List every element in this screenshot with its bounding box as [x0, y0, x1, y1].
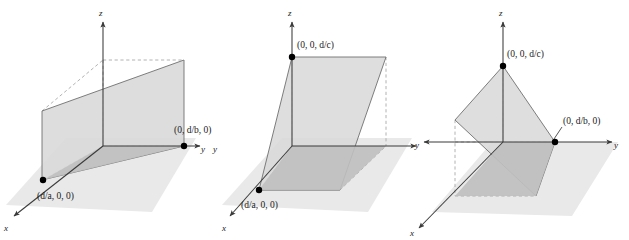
axis-label-y-1: y [200, 144, 205, 154]
axis-label-z-2: z [287, 8, 292, 18]
leader-line-3 [554, 127, 562, 139]
y-intercept-label-3: (0, d/b, 0) [563, 116, 600, 127]
figure-canvas: z y x (d/a, 0, 0) (0, d/b, 0) z y x [0, 0, 629, 240]
axis-label-y-neg-3: y [414, 140, 419, 150]
z-intercept-dot-2 [289, 54, 295, 60]
y-intercept-dot-1 [181, 143, 187, 149]
z-intercept-label-3: (0, 0, d/c) [507, 49, 544, 60]
z-intercept-dot-3 [500, 63, 506, 69]
y-intercept-dot-3 [552, 139, 558, 145]
axis-label-x-1: x [3, 223, 8, 233]
panel-2: z y x (0, 0, d/c) (d/a, 0, 0) [212, 8, 416, 233]
z-intercept-label-2: (0, 0, d/c) [297, 40, 334, 51]
axis-label-y-3: y [613, 140, 618, 150]
x-intercept-label-1: (d/a, 0, 0) [37, 191, 74, 202]
y-intercept-label-1: (0, d/b, 0) [174, 125, 211, 136]
axis-label-z-1: z [98, 8, 103, 18]
axis-label-x-2: x [221, 223, 226, 233]
axis-label-x-3: x [409, 228, 414, 238]
axis-label-y-2: y [212, 144, 217, 154]
x-intercept-dot-1 [40, 177, 46, 183]
axis-label-z-3: z [498, 8, 503, 18]
panel-3: z y y x (0, 0, d/c) (0, d/b, 0) [409, 8, 618, 238]
panel-1: z y x (d/a, 0, 0) (0, d/b, 0) [3, 8, 211, 233]
x-intercept-dot-2 [256, 187, 262, 193]
x-intercept-label-2: (d/a, 0, 0) [241, 200, 278, 211]
three-plane-diagrams: z y x (d/a, 0, 0) (0, d/b, 0) z y x [0, 0, 629, 240]
